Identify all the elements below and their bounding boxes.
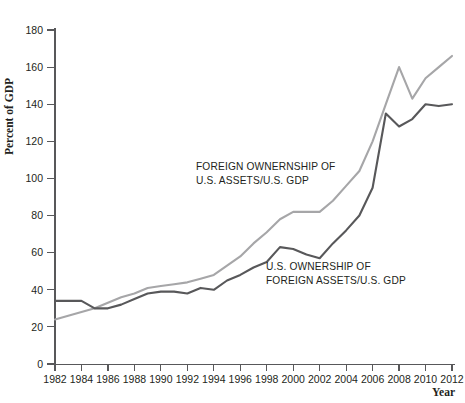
x-tick-label: 1982 (43, 373, 67, 385)
line-chart: 020406080100120140160180 198219841986198… (0, 0, 465, 403)
x-tick-label: 1992 (176, 373, 200, 385)
x-tick-label: 1990 (149, 373, 173, 385)
us-ownership-label-line-1: FOREIGN ASSETS/U.S. GDP (266, 275, 406, 286)
x-tick-label: 1984 (70, 373, 94, 385)
y-tick-label: 60 (31, 246, 43, 258)
x-tick-label: 2006 (361, 373, 385, 385)
x-tick-label: 1994 (202, 373, 226, 385)
x-tick-label: 2002 (308, 373, 332, 385)
y-axis-tick-marks (47, 30, 55, 364)
y-tick-label: 0 (37, 358, 43, 370)
foreign-ownership-label: FOREIGN OWNERNSHIP OFU.S. ASSETS/U.S. GD… (196, 161, 335, 186)
x-tick-label: 1998 (255, 373, 279, 385)
x-tick-label: 2008 (387, 373, 411, 385)
x-tick-label: 2004 (334, 373, 358, 385)
x-tick-label: 1988 (123, 373, 147, 385)
x-tick-label: 2012 (440, 373, 464, 385)
y-tick-label: 20 (31, 321, 43, 333)
chart-figure: 020406080100120140160180 198219841986198… (0, 0, 465, 403)
x-tick-label: 1986 (96, 373, 120, 385)
x-tick-label: 2010 (414, 373, 438, 385)
y-tick-label: 120 (25, 135, 43, 147)
y-tick-label: 80 (31, 209, 43, 221)
y-axis-title: Percent of GDP (3, 78, 15, 155)
us-ownership-label-line-0: U.S. OWNERSHIP OF (266, 261, 371, 272)
us-ownership-label: U.S. OWNERSHIP OFFOREIGN ASSETS/U.S. GDP (266, 261, 406, 286)
y-tick-label: 100 (25, 172, 43, 184)
foreign-ownership-label-line-1: U.S. ASSETS/U.S. GDP (196, 175, 309, 186)
y-axis-tick-labels: 020406080100120140160180 (25, 24, 43, 370)
x-tick-label: 1996 (229, 373, 253, 385)
foreign-ownership-label-line-0: FOREIGN OWNERNSHIP OF (196, 161, 335, 172)
x-axis-group: 1982198419861988199019921994199619982000… (43, 364, 464, 385)
y-axis-group: 020406080100120140160180 (25, 24, 55, 370)
x-axis-tick-labels: 1982198419861988199019921994199619982000… (43, 373, 464, 385)
y-tick-label: 180 (25, 24, 43, 36)
y-tick-label: 140 (25, 98, 43, 110)
x-tick-label: 2000 (282, 373, 306, 385)
y-tick-label: 40 (31, 284, 43, 296)
x-axis-title: Year (432, 386, 455, 398)
y-tick-label: 160 (25, 61, 43, 73)
